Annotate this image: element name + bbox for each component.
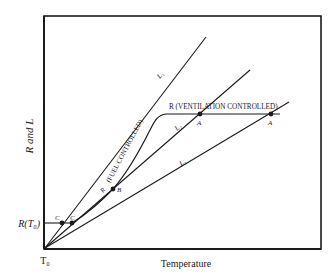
x-axis-label: Temperature — [161, 258, 212, 269]
label-c1: C — [55, 214, 60, 222]
label-r-curve: R — [98, 186, 107, 194]
point-a1 — [198, 112, 203, 117]
label-l2: L₂ — [172, 122, 183, 133]
origin-label: T₀ — [40, 255, 50, 266]
label-a2: A — [267, 119, 273, 127]
label-b: B — [117, 186, 122, 194]
r-t0-label: R(T₀) — [17, 218, 40, 230]
point-c1 — [60, 221, 65, 226]
line-l3 — [45, 102, 289, 248]
diagram-canvas: L₁ L₂ L₃ (FUEL CONTROLLED) R (VENTILATIO… — [0, 0, 334, 280]
label-c2: C — [70, 214, 75, 222]
point-b — [111, 187, 116, 192]
ventilation-controlled-label: R (VENTILATION CONTROLLED) — [169, 103, 278, 111]
label-l3: L₃ — [177, 157, 188, 168]
label-l1: L₁ — [155, 70, 166, 81]
y-axis-label: R and L — [23, 119, 35, 155]
point-a2 — [269, 112, 274, 117]
label-a1: A — [196, 119, 202, 127]
